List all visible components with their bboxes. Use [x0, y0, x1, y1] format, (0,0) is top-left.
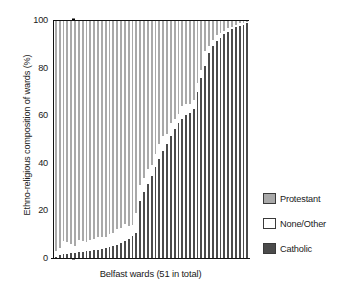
catholic-swatch — [263, 243, 276, 254]
bar-segment-none-other — [135, 213, 137, 233]
bar-segment-protestant — [105, 21, 107, 237]
bar-segment-catholic — [120, 243, 122, 259]
bar-segment-protestant — [181, 21, 183, 105]
bar-segment-protestant — [135, 21, 137, 213]
bar-segment-none-other — [63, 241, 65, 254]
bar-segment-none-other — [82, 241, 84, 252]
bar-segment-protestant — [74, 21, 76, 246]
bar-segment-none-other — [178, 114, 180, 124]
bar-segment-none-other — [143, 178, 145, 192]
bar-segment-none-other — [158, 144, 160, 159]
bar-segment-protestant — [78, 21, 80, 240]
plot-area — [53, 20, 249, 259]
legend-item-label: Protestant — [280, 194, 320, 204]
bar-segment-none-other — [189, 104, 191, 112]
bar-segment-protestant — [216, 21, 218, 35]
y-tick-label: 40 — [24, 158, 48, 168]
bar-segment-protestant — [200, 21, 202, 70]
bar-segment-catholic — [135, 233, 137, 259]
bar-segment-catholic — [216, 41, 218, 259]
bar-segment-protestant — [166, 21, 168, 134]
bar-segment-catholic — [223, 34, 225, 259]
bar-segment-protestant — [162, 21, 164, 136]
bar-segment-none-other — [105, 237, 107, 248]
bar-segment-none-other — [70, 244, 72, 254]
bar-segment-catholic — [151, 176, 153, 259]
bar-segment-protestant — [89, 21, 91, 240]
bar-segment-protestant — [70, 21, 72, 244]
bar-segment-protestant — [170, 21, 172, 123]
bar-segment-protestant — [139, 21, 141, 185]
bar-segment-catholic — [200, 78, 202, 259]
bar-segment-catholic — [197, 92, 199, 259]
bar-segment-protestant — [124, 21, 126, 224]
bar-segment-protestant — [101, 21, 103, 237]
bar-segment-protestant — [174, 21, 176, 119]
bar-segment-none-other — [151, 165, 153, 176]
bar-segment-catholic — [143, 192, 145, 259]
bar-segment-protestant — [143, 21, 145, 178]
bar-segment-catholic — [132, 236, 134, 259]
bar-segment-protestant — [93, 21, 95, 239]
legend-item: Protestant — [263, 186, 346, 211]
bar-segment-protestant — [132, 21, 134, 225]
bar-segment-protestant — [158, 21, 160, 144]
bar-segment-none-other — [124, 224, 126, 242]
protestant-swatch — [263, 193, 276, 204]
bar-segment-none-other — [208, 46, 210, 53]
bar-segment-none-other — [174, 119, 176, 130]
bar-segment-none-other — [147, 169, 149, 184]
bar-segment-protestant — [151, 21, 153, 165]
bar-segment-catholic — [239, 26, 241, 259]
bar-segment-protestant — [59, 21, 61, 248]
bar-segment-protestant — [66, 21, 68, 242]
bar-series-container — [54, 21, 249, 259]
x-axis-label: Belfast wards (51 in total) — [53, 268, 248, 279]
bar-segment-none-other — [74, 246, 76, 253]
bar-segment-catholic — [235, 27, 237, 259]
bar-segment-protestant — [197, 21, 199, 83]
bar-segment-none-other — [200, 70, 202, 78]
bar-segment-catholic — [246, 23, 248, 259]
bar-segment-catholic — [170, 136, 172, 259]
bar-segment-none-other — [109, 234, 111, 247]
bar-segment-none-other — [128, 226, 130, 239]
bar-segment-none-other — [139, 185, 141, 200]
bar-segment-catholic — [147, 184, 149, 259]
chart-figure: Ethno-religious composition of wards (%)… — [0, 0, 346, 299]
bar-segment-none-other — [155, 154, 157, 167]
bar-segment-catholic — [208, 53, 210, 259]
legend-item: Catholic — [263, 236, 346, 261]
bar-segment-catholic — [178, 123, 180, 259]
bar-segment-protestant — [109, 21, 111, 234]
bar-segment-none-other — [132, 225, 134, 236]
bar-segment-protestant — [147, 21, 149, 169]
legend-item-label: Catholic — [280, 244, 312, 254]
bar-segment-protestant — [63, 21, 65, 241]
y-tick-label: 100 — [24, 15, 48, 25]
bar-segment-none-other — [93, 239, 95, 251]
bar-segment-catholic — [155, 167, 157, 259]
bar-segment-none-other — [166, 134, 168, 144]
bar-segment-protestant — [227, 21, 229, 28]
legend-divider — [255, 186, 256, 248]
bar-segment-none-other — [89, 240, 91, 251]
bar-segment-protestant — [112, 21, 114, 233]
y-tick-label: 0 — [24, 253, 48, 263]
y-tick-label: 60 — [24, 110, 48, 120]
bar-segment-none-other — [86, 242, 88, 252]
bar-segment-catholic — [124, 241, 126, 259]
bar-segment-protestant — [97, 21, 99, 237]
legend-item: None/Other — [263, 211, 346, 236]
bar-segment-catholic — [181, 119, 183, 259]
bar-segment-protestant — [155, 21, 157, 154]
bar-segment-none-other — [101, 237, 103, 249]
y-tick-label: 20 — [24, 205, 48, 215]
legend-item-label: None/Other — [280, 219, 326, 229]
bar-segment-protestant — [185, 21, 187, 104]
bar-segment-protestant — [116, 21, 118, 229]
bar-segment-catholic — [162, 151, 164, 259]
bar-segment-none-other — [59, 248, 61, 255]
bar-segment-catholic — [220, 38, 222, 259]
bar-segment-protestant — [212, 21, 214, 40]
